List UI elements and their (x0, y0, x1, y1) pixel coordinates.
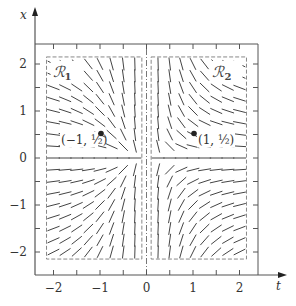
slope-segment (167, 176, 173, 188)
slope-segment (95, 119, 105, 127)
slope-segment (168, 93, 171, 106)
slope-segment (234, 249, 246, 255)
slope-segment (188, 119, 198, 127)
slope-segment (199, 120, 211, 126)
slope-segment (119, 142, 128, 151)
slope-segment (178, 118, 186, 128)
slope-segment (222, 237, 233, 244)
slope-segment (106, 167, 118, 172)
slope-segment (109, 93, 114, 105)
slope-segment (96, 82, 103, 93)
slope-segment (211, 214, 222, 220)
slope-segment (133, 163, 136, 176)
slope-segment (96, 223, 103, 234)
slope-segment (211, 84, 222, 91)
slope-segment (233, 226, 245, 231)
slope-segment (95, 189, 105, 197)
slope-segment (157, 175, 159, 188)
slope-segment (122, 246, 124, 259)
slope-segment (222, 226, 234, 232)
slope-segment (94, 168, 107, 171)
y-tick-label: 0 (19, 151, 27, 165)
slope-segment (84, 224, 93, 233)
slope-segment (122, 81, 124, 94)
slope-segment (158, 105, 159, 118)
slope-segment (94, 179, 106, 185)
slope-segment (157, 140, 160, 153)
slope-segment (199, 201, 210, 208)
slope-segment (222, 192, 235, 195)
slope-segment (135, 222, 136, 235)
slope-segment (47, 215, 59, 219)
slope-segment (158, 93, 159, 106)
slope-segment (211, 248, 221, 257)
slope-segment (167, 129, 173, 141)
slope-segment (169, 222, 171, 235)
slope-segment (122, 234, 124, 247)
slope-segment (177, 130, 187, 139)
slope-segment (189, 94, 197, 104)
slope-segment (190, 246, 196, 258)
slope-segment (210, 169, 223, 170)
slope-segment (71, 202, 83, 207)
slope-segment (108, 105, 114, 116)
slope-segment (169, 81, 171, 94)
slope-segment (135, 93, 136, 106)
slope-segment (188, 189, 198, 197)
direction-field-chart: −2−1012−2−1012 ℛ1ℛ2 (−1, ½)(1, ½) x t (0, 0, 296, 306)
slope-segment (175, 144, 187, 149)
slope-segment (158, 210, 159, 223)
slope-segment (107, 177, 117, 186)
slope-segment (201, 59, 209, 69)
slope-segment (48, 249, 60, 255)
slope-segment (97, 235, 103, 246)
slope-segment (190, 235, 196, 246)
slope-segment (200, 235, 209, 245)
slope-segment (135, 81, 136, 94)
slope-segment (59, 85, 71, 91)
slope-segment (210, 108, 222, 113)
x-tick-label: −1 (91, 281, 109, 295)
slope-segment (109, 211, 114, 223)
slope-segment (83, 107, 94, 114)
slope-segment (109, 222, 114, 234)
slope-segment (121, 117, 125, 129)
slope-segment (169, 69, 171, 82)
slope-segment (222, 109, 234, 113)
slope-segment (165, 142, 174, 151)
slope-segment (179, 211, 184, 223)
slope-segment (200, 224, 209, 233)
slope-segment (106, 144, 118, 149)
slope-segment (59, 97, 71, 102)
slope-segment (47, 192, 60, 194)
slope-segment (82, 169, 95, 171)
slope-segment (199, 107, 210, 114)
slope-segment (47, 169, 60, 170)
slope-segment (158, 116, 159, 129)
slope-segment (48, 238, 60, 243)
slope-segment (59, 109, 71, 113)
slope-segment (97, 58, 103, 70)
slope-segment (59, 180, 72, 182)
slope-segment (59, 237, 70, 244)
slope-segment (222, 85, 234, 91)
slope-segment (96, 212, 104, 222)
slope-segment (109, 81, 114, 93)
y-tick-label: 1 (19, 104, 27, 118)
slope-segment (47, 122, 60, 124)
slope-segment (134, 187, 135, 200)
y-axis-arrow (32, 7, 38, 16)
slope-segment (72, 248, 82, 257)
slope-segment (178, 188, 186, 198)
slope-segment (180, 58, 183, 71)
slope-segment (84, 83, 93, 92)
x-axis-label: t (276, 279, 281, 293)
slope-segment (188, 106, 197, 115)
slope-segment (110, 246, 113, 259)
slope-segment (70, 169, 83, 170)
slope-segment (233, 109, 246, 112)
slope-segment (97, 246, 103, 258)
slope-segment (121, 187, 125, 199)
slope-segment (158, 187, 159, 200)
slope-segment (233, 122, 246, 124)
